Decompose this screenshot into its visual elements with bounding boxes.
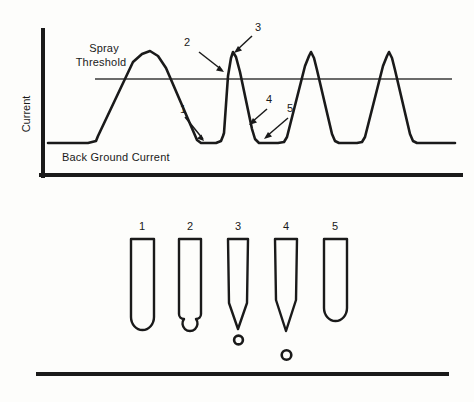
callout-label-3: 3 [248, 21, 268, 33]
stage-label-3: 3 [228, 220, 248, 232]
stage-shape-1 [131, 239, 154, 330]
callout-label-4: 4 [259, 93, 279, 105]
spray-threshold-label-line2: Threshold [60, 56, 142, 69]
stage-label-1: 1 [132, 220, 152, 232]
y-axis-title: Current [20, 84, 32, 144]
stage-shape-3 [228, 239, 248, 329]
stage-droplet-4 [282, 350, 292, 360]
callout-label-2: 2 [177, 36, 197, 48]
callout-arrow-4 [249, 109, 267, 125]
figure-container: Current Spray Threshold Back Ground Curr… [0, 0, 474, 402]
spray-threshold-label-line1: Spray [66, 42, 142, 55]
stage-shape-5 [324, 239, 347, 321]
stage-label-5: 5 [325, 220, 345, 232]
stage-shape-2 [179, 239, 201, 331]
callout-arrow-2 [199, 52, 224, 72]
callout-label-5: 5 [280, 102, 300, 114]
stage-label-2: 2 [180, 220, 200, 232]
callout-arrow-5 [264, 118, 288, 139]
stage-shape-4 [275, 239, 297, 331]
stage-droplet-3 [234, 336, 243, 345]
background-current-label: Back Ground Current [62, 151, 170, 164]
stage-label-4: 4 [276, 220, 296, 232]
stage-shapes-group [131, 239, 347, 360]
callout-label-1: 1 [173, 103, 193, 115]
callout-arrow-3 [234, 36, 252, 53]
